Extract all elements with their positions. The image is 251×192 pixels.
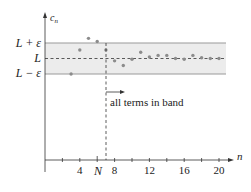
sequence-point xyxy=(122,64,125,67)
sequence-point xyxy=(78,48,81,51)
annotation-text: all terms in band xyxy=(110,96,184,108)
label-limit: L xyxy=(33,51,41,65)
x-ticks: 48121620 xyxy=(62,156,225,176)
sequence-point xyxy=(130,58,133,61)
label-lower: L − ε xyxy=(15,66,42,80)
sequence-point xyxy=(217,57,220,60)
x-tick-label: 8 xyxy=(112,164,118,176)
sequence-point xyxy=(87,37,90,40)
sequence-point xyxy=(148,55,151,58)
sequence-point xyxy=(139,51,142,54)
sequence-point xyxy=(113,59,116,62)
N-label: N xyxy=(93,164,103,178)
sequence-point xyxy=(165,54,168,57)
x-axis-arrow-icon xyxy=(228,158,234,162)
sequence-point xyxy=(96,40,99,43)
sequence-point xyxy=(69,72,72,75)
sequence-point xyxy=(209,57,212,60)
sequence-point xyxy=(191,54,194,57)
label-upper: L + ε xyxy=(15,36,42,50)
sequence-point xyxy=(174,57,177,60)
arrow-right-icon xyxy=(120,90,125,94)
x-tick-label: 20 xyxy=(214,164,226,176)
x-axis-label: n xyxy=(237,150,243,162)
convergence-diagram: 48121620 cn L + ε L L − ε n N all terms … xyxy=(0,0,251,192)
sequence-point xyxy=(156,54,159,57)
x-tick-label: 12 xyxy=(144,164,155,176)
sequence-point xyxy=(183,58,186,61)
x-tick-label: 4 xyxy=(77,164,83,176)
y-axis-label: cn xyxy=(50,12,58,25)
x-tick-label: 16 xyxy=(179,164,191,176)
y-axis-arrow-icon xyxy=(43,12,47,18)
sequence-point xyxy=(200,56,203,59)
